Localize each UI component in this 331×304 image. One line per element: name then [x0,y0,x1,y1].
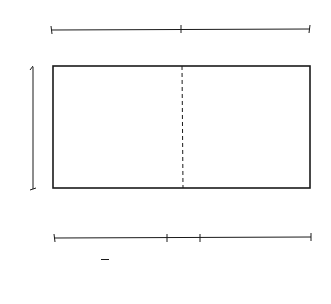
formula-numerator [101,258,109,260]
height-dimension-line [30,66,36,190]
bottom-dimension-line [54,233,311,242]
formula [97,258,123,261]
wall-rectangle [53,66,310,188]
centerline [182,66,183,188]
diagram-canvas: /* placeholder to keep valid svg */ [0,0,331,304]
top-dimension-line [51,25,310,34]
formula-fraction [101,258,109,261]
